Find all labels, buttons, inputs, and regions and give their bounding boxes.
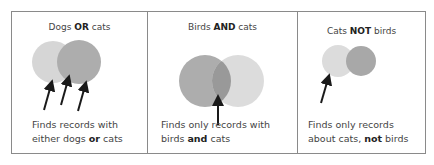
panel-or: Dogs OR cats Finds records with either d… — [12, 12, 147, 153]
panel-caption: Finds only records with birds and cats — [161, 118, 270, 146]
arrow-icon — [61, 80, 68, 105]
arrow-icon — [78, 86, 85, 111]
arrow-icon — [321, 79, 328, 103]
panel-not: Cats NOT birds Finds only records about … — [298, 12, 425, 153]
arrow-icon — [44, 85, 51, 110]
panel-caption: Finds only records about cats, not birds — [308, 118, 408, 146]
birds-circle — [346, 46, 376, 76]
panel-and: Birds AND cats Finds only records with b… — [148, 12, 297, 153]
panel-caption: Finds records with either dogs or cats — [32, 118, 123, 146]
cats-circle — [57, 40, 101, 84]
